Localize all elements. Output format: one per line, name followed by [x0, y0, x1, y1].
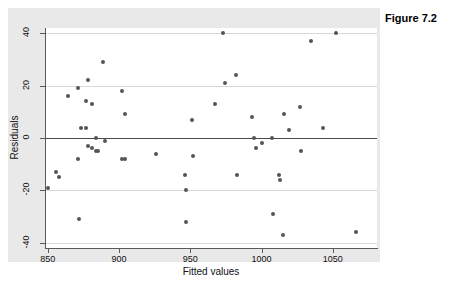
data-point — [184, 220, 188, 224]
y-tick-label: -20 — [21, 176, 31, 202]
y-tick-mark — [40, 243, 45, 244]
gridline — [45, 86, 377, 87]
data-point — [309, 39, 313, 43]
data-point — [213, 102, 217, 106]
x-tick-label: 1050 — [313, 254, 353, 264]
x-tick-mark — [48, 248, 49, 253]
data-point — [223, 81, 227, 85]
data-point — [299, 149, 303, 153]
data-point — [321, 126, 325, 130]
gridline — [45, 190, 377, 191]
data-point — [96, 149, 100, 153]
data-point — [76, 157, 80, 161]
data-point — [76, 86, 80, 90]
y-tick-label: 40 — [21, 19, 31, 45]
data-point — [282, 112, 286, 116]
data-point — [103, 139, 107, 143]
data-point — [298, 105, 302, 109]
y-axis-line — [45, 28, 46, 249]
data-point — [94, 136, 98, 140]
data-point — [84, 99, 88, 103]
x-tick-label: 1000 — [242, 254, 282, 264]
data-point — [184, 188, 188, 192]
x-axis-line — [45, 248, 378, 249]
x-tick-label: 900 — [99, 254, 139, 264]
y-axis-title: Residuals — [9, 98, 20, 178]
x-axis-title: Fitted values — [141, 266, 281, 277]
data-point — [235, 173, 239, 177]
data-point — [221, 31, 225, 35]
data-point — [250, 115, 254, 119]
data-point — [123, 157, 127, 161]
data-point — [79, 126, 83, 130]
gridline — [45, 243, 377, 244]
data-point — [120, 89, 124, 93]
data-point — [57, 175, 61, 179]
data-point — [354, 230, 358, 234]
data-point — [190, 118, 194, 122]
data-point — [54, 170, 58, 174]
data-point — [77, 217, 81, 221]
data-point — [46, 186, 50, 190]
y-tick-mark — [40, 138, 45, 139]
data-point — [86, 78, 90, 82]
data-point — [234, 73, 238, 77]
data-point — [254, 146, 258, 150]
data-point — [271, 212, 275, 216]
x-tick-label: 850 — [28, 254, 68, 264]
data-point — [123, 112, 127, 116]
data-point — [252, 136, 256, 140]
data-point — [278, 178, 282, 182]
x-tick-mark — [333, 248, 334, 253]
y-tick-label: 0 — [21, 124, 31, 150]
x-tick-mark — [262, 248, 263, 253]
y-tick-mark — [40, 190, 45, 191]
figure-root: Figure 7.2 -40-2002040 85090095010001050… — [0, 0, 460, 292]
data-point — [90, 102, 94, 106]
data-point — [84, 126, 88, 130]
data-point — [281, 233, 285, 237]
data-point — [277, 173, 281, 177]
y-tick-mark — [40, 33, 45, 34]
figure-title: Figure 7.2 — [385, 12, 437, 24]
y-tick-mark — [40, 86, 45, 87]
y-tick-label: 20 — [21, 72, 31, 98]
data-point — [183, 173, 187, 177]
data-point — [66, 94, 70, 98]
data-point — [260, 141, 264, 145]
data-point — [101, 60, 105, 64]
data-point — [154, 152, 158, 156]
scatter-plot-area — [45, 28, 377, 248]
data-point — [334, 31, 338, 35]
data-point — [191, 154, 195, 158]
y-tick-label: -40 — [21, 229, 31, 255]
gridline — [45, 33, 377, 34]
x-tick-mark — [119, 248, 120, 253]
x-tick-mark — [190, 248, 191, 253]
data-point — [270, 136, 274, 140]
x-tick-label: 950 — [170, 254, 210, 264]
data-point — [287, 128, 291, 132]
